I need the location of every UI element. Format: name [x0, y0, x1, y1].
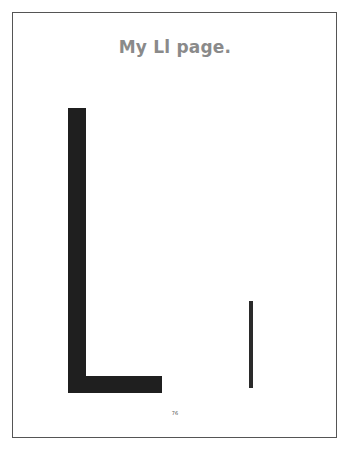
page-number: 76 — [0, 410, 350, 416]
page-title: My Ll page. — [0, 37, 350, 57]
uppercase-L-foot — [68, 376, 162, 393]
page-border — [12, 12, 337, 438]
worksheet-page: My Ll page. 76 — [0, 0, 350, 451]
lowercase-letter-l — [249, 301, 253, 388]
uppercase-L-stem — [68, 108, 86, 393]
